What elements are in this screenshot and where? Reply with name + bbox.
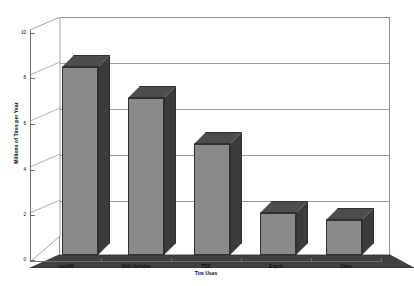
x-tick-0 [30, 258, 31, 262]
x-tick-3 [241, 258, 242, 262]
bar-chart: 10 8 6 4 2 0 Millions of Tires per Year [0, 0, 414, 286]
y-tick-4 [30, 170, 35, 171]
bar-other [326, 208, 374, 255]
y-axis-title: Millions of Tires per Year [13, 98, 19, 168]
y-tick-2 [30, 215, 35, 216]
y-tick-label-10: 10 [4, 30, 26, 35]
bar-tdf [194, 132, 242, 255]
bar-export [260, 201, 308, 255]
x-tick-1 [101, 258, 102, 262]
y-tick-6 [30, 124, 35, 125]
y-tick-10 [30, 33, 35, 34]
x-tick-label-export: Export [241, 264, 311, 270]
bar-landfill [62, 55, 110, 255]
bar-with-vehicles [128, 86, 176, 255]
x-axis-title: Tire Uses [171, 270, 241, 276]
x-axis-line [30, 261, 382, 262]
y-tick-label-2: 2 [4, 212, 26, 217]
x-tick-4 [311, 258, 312, 262]
plot-left-wall [30, 17, 62, 267]
x-tick-label-landfill: Landfill [31, 264, 101, 270]
y-axis-line [30, 30, 31, 262]
y-tick-label-0: 0 [4, 257, 26, 262]
x-tick-label-other: Other [311, 264, 381, 270]
x-tick-5 [381, 258, 382, 262]
y-tick-8 [30, 78, 35, 79]
x-tick-label-with-vehicles: With Vehicles [101, 264, 171, 270]
y-tick-label-8: 8 [4, 75, 26, 80]
x-tick-2 [171, 258, 172, 262]
